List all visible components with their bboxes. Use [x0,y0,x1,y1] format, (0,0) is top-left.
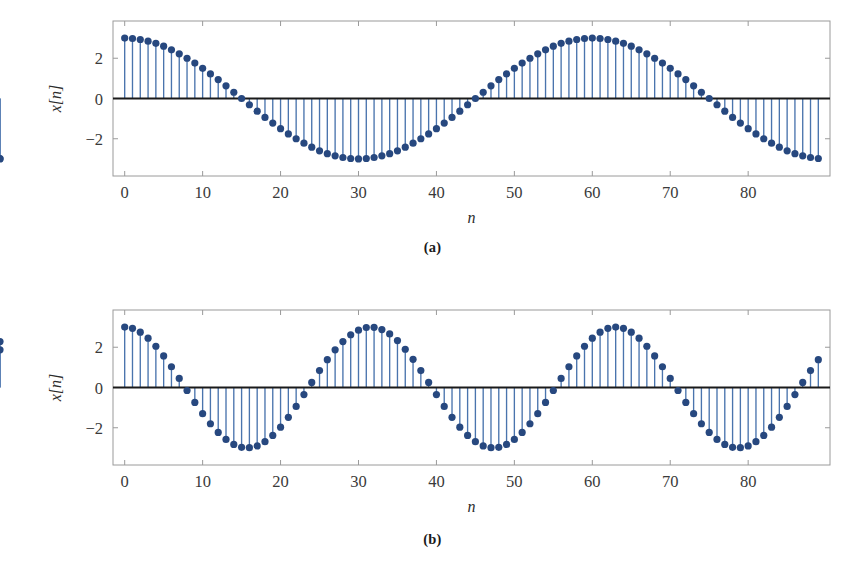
stem-marker [402,144,409,151]
y-tick-label: −2 [85,130,103,149]
stem-marker [495,444,502,451]
stem-marker [604,36,611,43]
stem-marker [137,36,144,43]
caption-a: (a) [0,239,865,256]
stem-marker [285,130,292,137]
stem-marker [745,442,752,449]
stem-marker [394,337,401,344]
stem-marker [682,76,689,83]
stem-marker [339,338,346,345]
stem-marker [628,329,635,336]
stem-marker [706,429,713,436]
x-tick-label: 20 [272,183,289,202]
stem-marker [612,38,619,45]
stem-marker [667,65,674,72]
y-tick-label: −2 [85,419,103,438]
stem-marker [316,367,323,374]
stem-marker [472,438,479,445]
stem-marker [222,82,229,89]
stem-marker [628,43,635,50]
stem-marker [386,150,393,157]
stem-marker [776,144,783,151]
stem-marker [542,399,549,406]
stem-marker [651,55,658,62]
stem-marker [519,59,526,66]
stem-marker [199,65,206,72]
stem-marker [480,442,487,449]
stem-marker [635,46,642,53]
stem-marker [791,150,798,157]
stem-marker [495,76,502,83]
stem-marker [160,352,167,359]
stem-marker [565,38,572,45]
stem-plot-a: 01020304050607080−202nx[n] [0,0,865,265]
stem-marker [573,36,580,43]
stem-marker [737,119,744,126]
x-tick-label: 60 [584,472,601,491]
stem-marker [254,108,261,115]
stem-marker [651,352,658,359]
stem-marker [596,35,603,42]
stem-marker [378,152,385,159]
stem-marker [799,379,806,386]
x-tick-label: 80 [740,183,757,202]
stem-marker [144,335,151,342]
stem-marker [129,325,136,332]
y-tick-label: 0 [95,379,103,398]
x-tick-label: 50 [506,183,523,202]
stem-marker [300,140,307,147]
x-tick-label: 30 [350,472,367,491]
x-axis-label: n [468,498,476,515]
stem-marker [308,144,315,151]
y-axis-label: x[n] [47,85,64,114]
x-tick-label: 0 [121,472,129,491]
stem-marker [807,154,814,161]
stem-marker [791,391,798,398]
stem-marker [760,135,767,142]
stem-marker [706,95,713,102]
stem-marker [324,356,331,363]
y-tick-label: 2 [95,49,103,68]
stem-marker [230,441,237,448]
stem-marker [441,403,448,410]
stem-marker [815,356,822,363]
stem-marker [363,324,370,331]
stem-marker [558,40,565,47]
stem-marker [667,375,674,382]
stem-marker [409,140,416,147]
stem-marker [417,367,424,374]
stem-marker [799,152,806,159]
stem-marker [589,35,596,42]
stem-marker [152,40,159,47]
stem-marker [745,125,752,132]
stem-marker [674,387,681,394]
stem-marker [191,59,198,66]
stem-marker [121,35,128,42]
x-tick-label: 50 [506,472,523,491]
x-tick-label: 40 [428,183,445,202]
stem-marker [550,387,557,394]
stem-marker [620,40,627,47]
stem-marker [207,420,214,427]
stem-marker [386,330,393,337]
stem-marker [176,375,183,382]
stem-marker [480,89,487,96]
x-tick-label: 40 [428,472,445,491]
stem-marker [238,95,245,102]
stem-marker [643,50,650,57]
stem-marker [519,429,526,436]
stem-marker [332,346,339,353]
x-tick-label: 80 [740,472,757,491]
stem-marker [355,155,362,162]
stem-marker [370,324,377,331]
y-axis-label-group: x[n] [47,374,64,403]
stem-marker [402,346,409,353]
figure-container: 01020304050607080−202nx[n] (a) 010203040… [0,0,865,570]
stem-marker [456,424,463,431]
stem-marker [534,50,541,57]
stem-marker [721,108,728,115]
stem-marker [347,155,354,162]
stem-marker [456,108,463,115]
stem-marker [729,114,736,121]
stem-marker [269,119,276,126]
